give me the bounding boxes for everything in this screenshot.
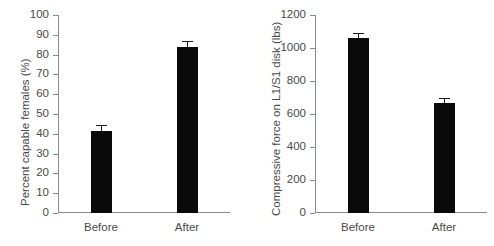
y-tick-label: 20 (36, 168, 49, 180)
y-tick-mark (53, 154, 58, 155)
error-bar-cap (182, 41, 193, 42)
y-tick-mark (53, 55, 58, 56)
bar-left-before (91, 131, 112, 213)
y-tick-label: 400 (287, 141, 306, 153)
y-tick-label: 600 (287, 108, 306, 120)
plot-area-left: 0102030405060708090100BeforeAfter (58, 15, 230, 213)
y-tick-label: 70 (36, 69, 49, 81)
y-tick-label: 100 (30, 9, 49, 21)
y-tick-mark (53, 74, 58, 75)
y-axis-line-left (58, 15, 59, 213)
y-tick-mark (53, 114, 58, 115)
y-tick-label: 0 (300, 207, 306, 219)
y-tick-label: 1000 (280, 42, 306, 54)
bar-left-after (177, 47, 198, 213)
y-tick-mark (53, 94, 58, 95)
x-axis-label-after: After (175, 222, 199, 234)
x-axis-label-after: After (432, 222, 456, 234)
error-bar-cap (439, 98, 450, 99)
y-tick-mark (310, 114, 315, 115)
y-tick-mark (310, 15, 315, 16)
x-axis-label-before: Before (341, 222, 375, 234)
x-axis-line-left (58, 212, 230, 213)
x-axis-label-before: Before (84, 222, 118, 234)
y-tick-mark (53, 213, 58, 214)
y-tick-label: 0 (43, 207, 49, 219)
y-tick-label: 60 (36, 88, 49, 100)
y-tick-label: 10 (36, 187, 49, 199)
y-tick-mark (310, 147, 315, 148)
y-tick-mark (310, 180, 315, 181)
y-tick-label: 80 (36, 49, 49, 61)
y-axis-line-right (315, 15, 316, 213)
bar-right-after (434, 103, 455, 213)
y-tick-mark (53, 193, 58, 194)
bar-right-before (348, 38, 369, 213)
y-tick-mark (53, 15, 58, 16)
y-tick-label: 800 (287, 75, 306, 87)
y-tick-mark (53, 35, 58, 36)
y-tick-label: 50 (36, 108, 49, 120)
y-tick-label: 40 (36, 128, 49, 140)
y-tick-mark (53, 173, 58, 174)
plot-area-right: 020040060080010001200BeforeAfter (315, 15, 487, 213)
y-tick-mark (53, 134, 58, 135)
y-tick-mark (310, 48, 315, 49)
figure-container: Percent capable females (%) 010203040506… (0, 0, 494, 246)
y-tick-mark (310, 213, 315, 214)
y-tick-mark (310, 81, 315, 82)
error-bar-cap (353, 33, 364, 34)
chart-panel-right: Compressive force on L1/S1 disk (lbs) 02… (247, 0, 494, 246)
y-axis-title-left: Percent capable females (%) (20, 58, 32, 206)
x-axis-line-right (315, 212, 487, 213)
y-tick-label: 90 (36, 29, 49, 41)
y-tick-label: 200 (287, 174, 306, 186)
error-bar-cap (96, 125, 107, 126)
y-tick-label: 1200 (280, 9, 306, 21)
chart-panel-left: Percent capable females (%) 010203040506… (0, 0, 247, 246)
y-tick-label: 30 (36, 148, 49, 160)
